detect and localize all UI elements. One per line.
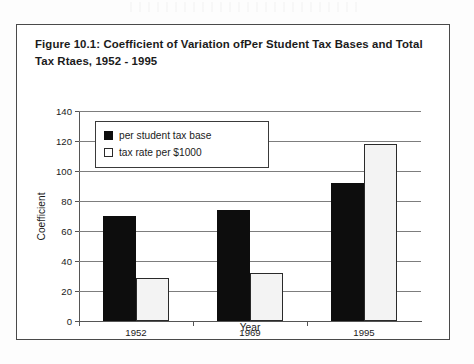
scan-artifact: [130, 2, 360, 12]
y-axis-tick-label: 0: [67, 316, 72, 327]
y-axis-tick-mark: [75, 111, 79, 112]
y-axis-tick-label: 140: [56, 106, 72, 117]
bar-1969-series-1: [217, 210, 250, 321]
y-axis-tick-label: 100: [56, 166, 72, 177]
legend-item: tax rate per $1000: [104, 144, 260, 161]
y-axis-tick-label: 120: [56, 136, 72, 147]
x-axis-title: Year: [79, 322, 421, 333]
figure-border: Figure 10.1: Coefficient of Variation of…: [16, 24, 450, 340]
bar-1995-series-1: [331, 183, 364, 321]
y-axis-title: Coefficient: [35, 111, 49, 321]
y-axis-tick-label: 20: [61, 286, 72, 297]
y-axis-tick-mark: [75, 201, 79, 202]
bar-1969-series-2: [250, 273, 283, 321]
legend-swatch-outline-icon: [104, 148, 113, 157]
y-axis-tick-mark: [75, 291, 79, 292]
y-axis-tick-label: 60: [61, 226, 72, 237]
y-axis-tick-label: 40: [61, 256, 72, 267]
legend-item: per student tax base: [104, 127, 260, 144]
legend-swatch-filled-icon: [104, 131, 113, 140]
y-axis-title-label: Coefficient: [37, 192, 48, 240]
bar-1952-series-1: [103, 216, 136, 321]
bar-1995-series-2: [364, 144, 397, 321]
chart-legend: per student tax basetax rate per $1000: [95, 121, 269, 168]
bar-group: [331, 111, 397, 321]
y-axis-tick-mark: [75, 171, 79, 172]
y-axis-tick-label: 80: [61, 196, 72, 207]
y-axis-tick-mark: [75, 261, 79, 262]
bar-1952-series-2: [136, 278, 169, 322]
y-axis-tick-mark: [75, 231, 79, 232]
y-axis-tick-mark: [75, 141, 79, 142]
legend-label: tax rate per $1000: [119, 147, 202, 158]
legend-label: per student tax base: [119, 130, 211, 141]
figure-caption: Figure 10.1: Coefficient of Variation of…: [35, 36, 429, 69]
